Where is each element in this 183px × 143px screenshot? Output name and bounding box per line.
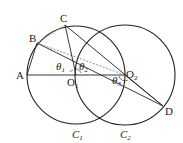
label-a: A bbox=[16, 69, 24, 81]
label-theta2: θ2 bbox=[79, 60, 88, 74]
geometry-diagram: A B C O1 O2 D θ1 θ2 θ3 C1 C2 bbox=[0, 0, 183, 143]
label-b: B bbox=[29, 32, 36, 44]
label-c2: C2 bbox=[120, 128, 131, 142]
label-theta3: θ3 bbox=[112, 74, 121, 88]
angle-arc-theta1 bbox=[70, 70, 73, 72]
label-theta1: θ1 bbox=[56, 60, 65, 74]
segment-b-c bbox=[37, 25, 65, 43]
label-o1: O1 bbox=[67, 76, 79, 90]
label-c1: C1 bbox=[72, 128, 83, 142]
label-d: D bbox=[165, 105, 173, 117]
segment-b-d bbox=[37, 43, 163, 106]
label-c: C bbox=[60, 12, 67, 24]
segment-a-b bbox=[27, 43, 37, 75]
label-o2: O2 bbox=[126, 68, 138, 82]
